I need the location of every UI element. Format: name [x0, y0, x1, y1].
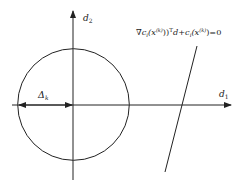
- constraint-line: [165, 46, 197, 172]
- radius-label: Δk: [37, 89, 49, 101]
- diagram-canvas: d2 d1 Δk ∇ci(x(k)))Td+ci(x(k))=0: [0, 0, 240, 183]
- d1-label: d1: [219, 89, 229, 100]
- constraint-equation: ∇ci(x(k)))Td+ci(x(k))=0: [136, 27, 221, 38]
- d2-label: d2: [83, 13, 93, 24]
